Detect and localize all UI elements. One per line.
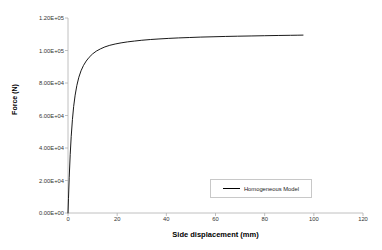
x-tick-label: 20 — [97, 216, 137, 222]
x-tick-label: 80 — [245, 216, 285, 222]
y-tick-label: 2.00E+04 — [18, 178, 64, 184]
y-axis-title: Force (N) — [11, 70, 18, 130]
x-tick-label: 120 — [343, 216, 382, 222]
force-displacement-chart: Force (N) Side displacement (mm) 0.00E+0… — [0, 0, 382, 250]
y-tick-label: 1.00E+05 — [18, 48, 64, 54]
x-tick-label: 60 — [196, 216, 236, 222]
x-tick-label: 40 — [146, 216, 186, 222]
legend-label-homogeneous-model: Homogeneous Model — [244, 186, 299, 192]
y-tick-label: 6.00E+04 — [18, 113, 64, 119]
y-axis-ticks — [65, 18, 68, 213]
y-tick-label: 8.00E+04 — [18, 80, 64, 86]
y-tick-label: 4.00E+04 — [18, 145, 64, 151]
x-tick-label: 0 — [48, 216, 88, 222]
legend: Homogeneous Model — [210, 179, 312, 198]
x-tick-label: 100 — [294, 216, 334, 222]
y-tick-label: 1.20E+05 — [18, 15, 64, 21]
x-axis-title: Side displacement (mm) — [68, 230, 363, 239]
legend-swatch-homogeneous-model — [223, 188, 240, 189]
